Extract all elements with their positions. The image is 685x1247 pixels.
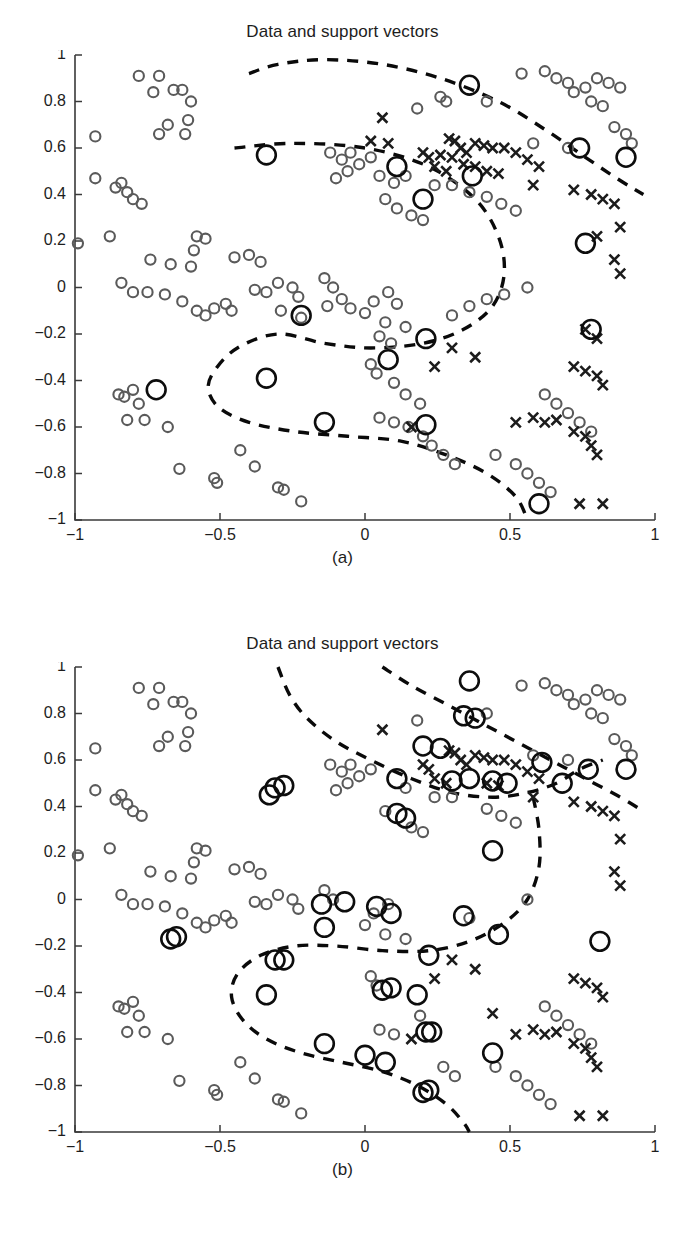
data-point-circle — [345, 303, 355, 313]
data-point-circle — [261, 287, 271, 297]
data-point-circle — [586, 708, 596, 718]
data-point-circle — [374, 331, 384, 341]
data-point-circle — [163, 120, 173, 130]
data-point-circle — [186, 873, 196, 883]
plot-area-a: −1−0.8−0.6−0.4−0.200.20.40.60.81−1−0.500… — [0, 50, 685, 550]
data-point-circle — [142, 287, 152, 297]
data-point-circle — [380, 194, 390, 204]
data-point-circle — [183, 727, 193, 737]
data-point-cross — [569, 1039, 579, 1049]
x-tick-label: 1 — [651, 1138, 660, 1155]
data-point-circle — [154, 129, 164, 139]
data-point-circle — [418, 827, 428, 837]
y-tick-label: 0.6 — [44, 138, 66, 155]
data-point-circle — [615, 694, 625, 704]
data-point-circle — [415, 399, 425, 409]
data-point-circle — [154, 71, 164, 81]
data-point-circle — [90, 131, 100, 141]
data-point-circle — [540, 678, 550, 688]
data-point-circle — [450, 459, 460, 469]
data-point-circle — [177, 296, 187, 306]
data-point-cross — [430, 974, 440, 984]
data-point-circle — [235, 1057, 245, 1067]
subplot-label-b: (b) — [0, 1160, 685, 1180]
data-point-circle — [517, 681, 527, 691]
data-point-cross — [418, 148, 428, 158]
subplot-label-a: (a) — [0, 548, 685, 568]
y-tick-label: 0.8 — [44, 92, 66, 109]
y-tick-label: 1 — [57, 662, 66, 674]
data-point-cross — [499, 755, 509, 765]
data-point-circle — [128, 385, 138, 395]
data-point-circle — [546, 487, 556, 497]
data-point-circle — [389, 178, 399, 188]
y-tick-label: 0.2 — [44, 843, 66, 860]
data-point-cross — [598, 380, 608, 390]
data-point-circle — [163, 732, 173, 742]
support-vector-ring — [379, 350, 398, 369]
data-point-circle — [177, 908, 187, 918]
data-point-cross — [522, 155, 532, 165]
data-point-cross — [586, 1053, 596, 1063]
data-point-circle — [319, 273, 329, 283]
data-point-circle — [563, 1020, 573, 1030]
data-point-circle — [383, 287, 393, 297]
data-point-circle — [569, 699, 579, 709]
data-point-circle — [406, 210, 416, 220]
data-point-circle — [154, 683, 164, 693]
data-point-circle — [354, 771, 364, 781]
data-point-cross — [592, 1062, 602, 1072]
data-point-circle — [116, 278, 126, 288]
data-point-circle — [496, 199, 506, 209]
data-point-cross — [580, 978, 590, 988]
data-point-cross — [551, 1027, 561, 1037]
data-point-circle — [145, 867, 155, 877]
panel-b: Data and support vectors −1−0.8−0.6−0.4−… — [0, 612, 685, 1247]
data-point-circle — [250, 897, 260, 907]
data-point-circle — [575, 1029, 585, 1039]
data-point-cross — [609, 255, 619, 265]
support-vector-ring — [579, 760, 598, 779]
data-point-cross — [586, 190, 596, 200]
data-point-cross — [447, 152, 457, 162]
data-point-circle — [551, 399, 561, 409]
x-axis-ticks: −1−0.500.51 — [66, 1125, 660, 1155]
data-point-circle — [145, 255, 155, 265]
data-point-circle — [189, 245, 199, 255]
data-point-cross — [534, 162, 544, 172]
support-vector-ring — [408, 985, 427, 1004]
data-point-circle — [273, 890, 283, 900]
y-tick-label: −0.2 — [34, 936, 66, 953]
data-point-circle — [374, 1025, 384, 1035]
data-point-circle — [148, 87, 158, 97]
data-point-cross — [569, 185, 579, 195]
y-tick-label: −1 — [48, 510, 66, 527]
support-vector-ring — [419, 946, 438, 965]
data-point-circle — [522, 468, 532, 478]
data-point-cross — [580, 366, 590, 376]
data-point-circle — [134, 71, 144, 81]
data-point-circle — [345, 148, 355, 158]
x-tick-label: −0.5 — [204, 526, 236, 543]
data-point-circle — [174, 1076, 184, 1086]
data-point-cross — [598, 499, 608, 509]
data-point-circle — [430, 180, 440, 190]
y-tick-label: −1 — [48, 1122, 66, 1139]
data-point-cross — [383, 138, 393, 148]
data-point-cross — [511, 148, 521, 158]
y-tick-label: −0.4 — [34, 371, 66, 388]
data-point-circle — [389, 1029, 399, 1039]
data-point-circle — [244, 250, 254, 260]
support-vector-ring — [460, 672, 479, 691]
decision-boundary-curve — [249, 60, 643, 195]
data-point-cross — [470, 750, 480, 760]
data-point-cross — [528, 413, 538, 423]
x-tick-label: −1 — [66, 526, 84, 543]
data-point-cross — [511, 417, 521, 427]
support-vector-ring — [483, 841, 502, 860]
data-point-circle — [569, 87, 579, 97]
data-point-circle — [551, 73, 561, 83]
data-point-circle — [160, 901, 170, 911]
data-point-circle — [511, 1071, 521, 1081]
data-point-circle — [604, 690, 614, 700]
